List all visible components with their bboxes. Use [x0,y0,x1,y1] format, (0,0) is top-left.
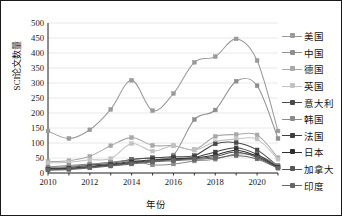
chart-legend: 美国中国德国英国意大利韩国法国日本加拿大印度 [282,28,342,194]
data-point-marker [172,144,176,148]
legend-label: 加拿大 [304,162,334,176]
legend-label: 中国 [304,46,324,60]
data-point-marker [234,79,238,83]
y-tick-label: 50 [35,153,44,163]
data-point-marker [192,158,196,162]
x-tick-label: 2012 [81,177,98,187]
y-tick-label: 300 [31,78,44,88]
legend-label: 英国 [304,79,324,93]
data-point-marker [276,137,280,141]
sci-papers-line-chart: 0501001502002503003504004505002010201220… [0,0,342,216]
data-point-marker [192,118,196,122]
y-tick-label: 250 [31,93,44,103]
data-point-marker [255,137,259,141]
x-tick-label: 2018 [207,177,224,187]
data-point-marker [151,144,155,148]
data-point-marker [234,137,238,141]
data-point-marker [109,164,113,168]
data-point-marker [255,133,259,137]
legend-item-1[interactable]: 中国 [282,45,342,62]
legend-item-3[interactable]: 英国 [282,78,342,95]
data-point-marker [67,137,71,141]
legend-dot [290,33,295,38]
data-point-marker [255,157,259,161]
legend-label: 德国 [304,62,324,76]
data-point-marker [213,135,217,139]
legend-item-2[interactable]: 德国 [282,61,342,78]
data-point-marker [192,60,196,64]
legend-marker-icon [282,114,302,124]
legend-marker-icon [282,31,302,41]
data-point-marker [46,161,50,165]
y-tick-label: 100 [31,138,44,148]
x-tick-label: 2016 [165,177,183,187]
data-point-marker [130,136,134,140]
legend-item-4[interactable]: 意大利 [282,94,342,111]
legend-item-9[interactable]: 印度 [282,177,342,194]
y-tick-label: 150 [31,123,44,133]
y-tick-label: 400 [31,48,44,58]
legend-dot [290,50,295,55]
y-tick-label: 200 [31,108,44,118]
series-line [48,39,278,139]
data-point-marker [46,168,50,172]
legend-dot [290,183,295,188]
y-tick-label: 350 [31,63,44,73]
y-tick-label: 450 [31,33,44,43]
data-point-marker [172,159,176,163]
legend-label: 日本 [304,145,324,159]
legend-dot [290,166,295,171]
data-point-marker [234,141,238,145]
data-point-marker [172,92,176,96]
legend-marker-icon [282,181,302,191]
series-0 [46,37,280,140]
legend-label: 法国 [304,129,324,143]
legend-marker-icon [282,64,302,74]
legend-marker-icon [282,81,302,91]
legend-label: 意大利 [304,96,334,110]
legend-item-5[interactable]: 韩国 [282,111,342,128]
data-point-marker [255,84,259,88]
legend-dot [290,66,295,71]
x-tick-label: 2010 [39,177,56,187]
data-point-marker [109,108,113,112]
legend-label: 印度 [304,179,324,193]
series-9 [46,154,280,172]
legend-item-6[interactable]: 法国 [282,128,342,145]
data-point-marker [255,148,259,152]
legend-dot [290,149,295,154]
data-point-marker [213,55,217,59]
data-point-marker [213,142,217,146]
data-point-marker [276,129,280,133]
legend-item-8[interactable]: 加拿大 [282,161,342,178]
data-point-marker [109,144,113,148]
data-point-marker [151,160,155,164]
data-point-marker [276,166,280,170]
y-tick-label: 500 [31,18,44,28]
y-axis-label: SCI论文数量 [10,23,23,109]
legend-dot [290,116,295,121]
data-point-marker [67,168,71,172]
x-axis-label: 年份 [61,197,251,211]
legend-marker-icon [282,164,302,174]
legend-dot [290,100,295,105]
data-point-marker [109,157,113,161]
data-point-marker [234,154,238,158]
data-point-marker [46,129,50,133]
data-point-marker [255,59,259,63]
legend-marker-icon [282,131,302,141]
x-tick-label: 2020 [248,177,265,187]
data-point-marker [88,154,92,158]
data-point-marker [88,166,92,170]
legend-dot [290,83,295,88]
legend-item-0[interactable]: 美国 [282,28,342,45]
legend-marker-icon [282,147,302,157]
legend-marker-icon [282,98,302,108]
data-point-marker [234,150,238,154]
data-point-marker [276,157,280,161]
legend-item-7[interactable]: 日本 [282,144,342,161]
data-point-marker [234,133,238,137]
legend-marker-icon [282,48,302,58]
data-point-marker [151,149,155,153]
x-tick-label: 2014 [123,177,141,187]
